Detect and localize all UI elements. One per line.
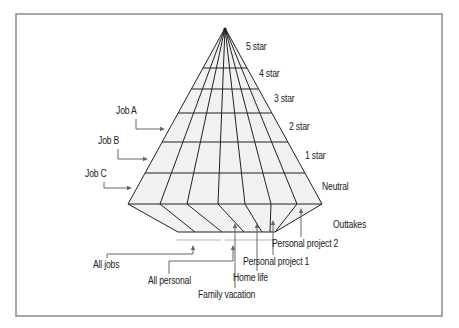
callout-label: Job A xyxy=(116,106,137,116)
leader-line xyxy=(104,182,129,188)
arrow-icon xyxy=(160,127,165,131)
callout-label: Job B xyxy=(98,136,119,146)
level-label: 3 star xyxy=(274,94,294,104)
callout-label: Personal project 1 xyxy=(243,257,309,267)
diagram-canvas xyxy=(0,0,459,328)
level-label: Outtakes xyxy=(333,220,366,230)
apex-point xyxy=(223,27,226,30)
callout-label: All jobs xyxy=(93,260,119,270)
level-label: 1 star xyxy=(305,151,325,161)
level-label: Neutral xyxy=(322,182,349,192)
level-label: 2 star xyxy=(289,122,309,132)
level-label: 5 star xyxy=(246,42,266,52)
arrow-icon xyxy=(127,186,132,190)
leader-line xyxy=(169,248,233,274)
callout-label: Personal project 2 xyxy=(272,239,338,249)
leader-line xyxy=(118,149,145,159)
arrow-icon xyxy=(143,157,148,161)
arrow-icon xyxy=(191,245,195,250)
level-label: 4 star xyxy=(259,69,279,79)
callout-label: Job C xyxy=(85,169,107,179)
callout-label: Family vacation xyxy=(198,290,255,300)
leader-line xyxy=(107,248,193,258)
callout-label: All personal xyxy=(148,276,191,286)
leader-line xyxy=(136,119,162,129)
callout-label: Home life xyxy=(233,273,268,283)
pyramid-diagram: 5 star4 star3 star2 star1 starNeutralOut… xyxy=(0,0,459,328)
